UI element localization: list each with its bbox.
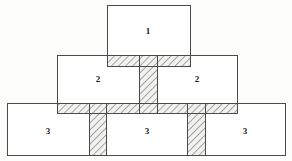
- block-label-bottom-tier-1: 3: [145, 126, 150, 136]
- block-label-middle-tier-1: 2: [195, 74, 200, 84]
- hatched-band-upper-bed-joint-left: [108, 56, 140, 67]
- hatched-column-right-head-joint: [188, 104, 206, 156]
- hatched-column-center-head-joint: [140, 56, 158, 114]
- hatched-band-upper-bed-joint-right: [158, 56, 191, 67]
- block-label-top-tier-0: 1: [146, 26, 151, 36]
- block-diagram: 122333: [0, 0, 292, 161]
- block-label-bottom-tier-2: 3: [243, 126, 248, 136]
- hatched-column-left-head-joint: [90, 104, 107, 156]
- diagram-canvas: [0, 0, 292, 161]
- block-label-bottom-tier-0: 3: [46, 126, 51, 136]
- block-label-middle-tier-0: 2: [96, 74, 101, 84]
